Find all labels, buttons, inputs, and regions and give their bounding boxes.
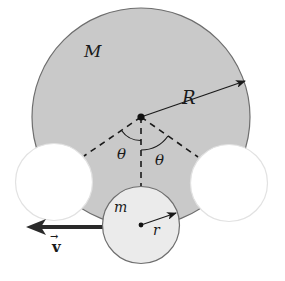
large-disk-center-dot [137, 113, 144, 120]
physics-diagram: M R θ θ m r v → [0, 0, 285, 281]
label-theta-right: θ [155, 151, 164, 169]
small-disk-center-dot [139, 223, 144, 228]
label-m: m [114, 199, 127, 215]
label-v-vector-mark: → [50, 231, 59, 242]
ghost-disk-left [16, 144, 93, 221]
label-M: M [83, 41, 102, 61]
label-theta-left: θ [117, 145, 126, 163]
label-R: R [181, 87, 196, 108]
ghost-disk-right [191, 145, 268, 222]
